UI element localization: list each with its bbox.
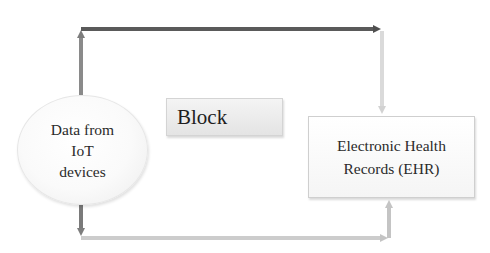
ehr-node: Electronic Health Records (EHR) [308,116,475,198]
ehr-node-label-line1: Electronic Health [337,134,446,157]
block-node: Block [166,98,283,136]
iot-node-label-line3: devices [51,161,114,182]
iot-node-label-line1: Data from [51,119,114,140]
bottom-connector [81,204,389,238]
iot-data-source-node: Data from IoT devices [17,95,148,205]
flow-diagram: Data from IoT devices Block Electronic H… [0,0,490,253]
ehr-node-label-line2: Records (EHR) [337,157,446,180]
iot-node-label-line2: IoT [51,140,114,161]
block-node-label: Block [177,105,227,130]
